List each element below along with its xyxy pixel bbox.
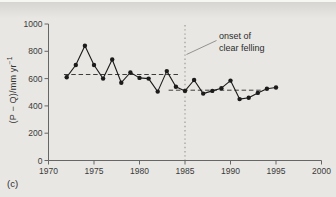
data-point [237,97,241,101]
annotation-leader-line [187,41,217,55]
y-tick-label: 200 [28,128,42,138]
x-tick-label: 2000 [312,166,331,176]
data-point [256,91,260,95]
x-tick-label: 1980 [130,166,149,176]
y-tick-label: 1000 [24,19,43,29]
line-chart: 0200400600800100019701975198019851990199… [0,2,336,197]
y-tick-label: 800 [28,46,42,56]
data-point [174,85,178,89]
data-point [110,57,114,61]
data-point [219,86,223,90]
x-tick-label: 1970 [39,166,58,176]
figure-panel-c: 0200400600800100019701975198019851990199… [0,0,336,197]
data-point [74,63,78,67]
x-tick-label: 1995 [267,166,286,176]
data-point [146,76,150,80]
data-point [210,89,214,93]
y-tick-label: 0 [38,156,43,166]
y-axis-label: (P − Q)/mm yr−1 [6,57,18,124]
data-point [183,89,187,93]
x-tick-label: 1985 [176,166,195,176]
panel-label: (c) [7,178,18,189]
data-point [201,91,205,95]
y-tick-label: 600 [28,74,42,84]
data-point [156,89,160,93]
y-axis-label-superscript: −1 [6,57,13,65]
x-tick-label: 1990 [221,166,240,176]
data-point [128,70,132,74]
data-point [265,87,269,91]
data-point [247,96,251,100]
event-annotation: onset of clear felling [219,31,265,54]
y-tick-label: 400 [28,101,42,111]
data-point [165,69,169,73]
data-point [83,44,87,48]
data-point [274,85,278,89]
data-point [228,78,232,82]
data-point [192,78,196,82]
data-point [92,63,96,67]
data-point [65,75,69,79]
data-point [137,76,141,80]
y-axis-label-text: (P − Q)/mm yr [8,64,18,123]
x-tick-label: 1975 [85,166,104,176]
data-point [119,81,123,85]
data-point [101,76,105,80]
